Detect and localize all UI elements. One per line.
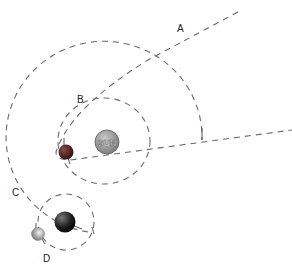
moon-d-icon (32, 228, 45, 241)
sun: SUN (95, 130, 119, 154)
label-a: A (177, 23, 184, 34)
moon-d (32, 223, 46, 244)
planet-c-icon (55, 212, 76, 233)
label-c: C (12, 187, 19, 198)
sun-label: SUN (97, 138, 116, 148)
label-d: D (43, 253, 50, 264)
orbit-diagram: SUN A B C D (0, 0, 292, 276)
planet-c (55, 212, 83, 233)
label-b: B (77, 94, 84, 105)
planet-b-icon (59, 145, 74, 160)
path-a-comet (56, 12, 292, 160)
